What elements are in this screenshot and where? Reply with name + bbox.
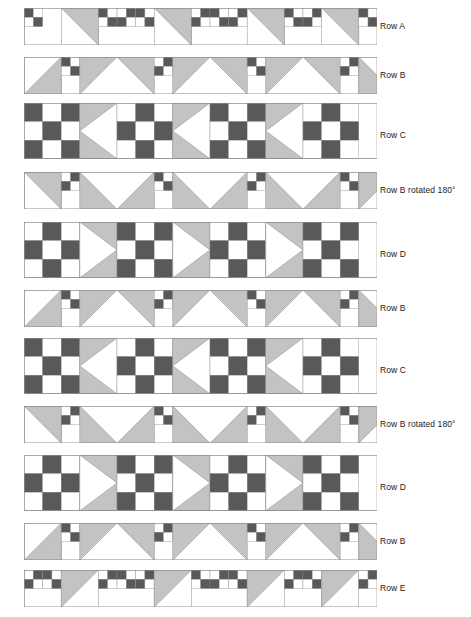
- unit-nine-patch: [303, 103, 359, 159]
- unit-hst: [322, 570, 359, 607]
- unit-nine-patch: [210, 455, 266, 511]
- unit-peak: [173, 523, 247, 560]
- row-label-row-b-3: Row B: [380, 537, 406, 546]
- unit-four-patch: [98, 8, 117, 27]
- quilt-row-row-e: [24, 570, 377, 607]
- row-label-row-b-rot-1: Row B rotated 180°: [380, 186, 456, 195]
- unit-four-patch: [154, 406, 173, 425]
- row-label-row-b-1: Row B: [380, 71, 406, 80]
- unit-hst: [359, 523, 378, 560]
- unit-peak: [80, 290, 154, 327]
- unit-nine-patch: [303, 222, 359, 278]
- row-label-row-c-2: Row C: [380, 366, 406, 375]
- unit-four-patch: [359, 8, 378, 27]
- unit-four-patch: [117, 8, 136, 27]
- unit-four-patch: [154, 290, 173, 309]
- quilt-assembly-diagram: Row ARow BRow CRow B rotated 180°Row DRo…: [0, 0, 471, 617]
- unit-four-patch: [247, 57, 266, 76]
- unit-hst: [359, 57, 378, 94]
- unit-four-patch: [154, 172, 173, 191]
- row-label-row-b-rot-2: Row B rotated 180°: [380, 420, 456, 429]
- unit-peak: [266, 172, 340, 209]
- quilt-row-row-c-2: [24, 338, 377, 394]
- unit-nine-patch: [24, 338, 80, 394]
- unit-hst: [61, 8, 98, 45]
- unit-nine-patch: [303, 455, 359, 511]
- unit-four-patch: [191, 8, 210, 27]
- unit-hst: [359, 290, 378, 327]
- unit-peak: [80, 57, 154, 94]
- unit-nine-patch: [117, 338, 173, 394]
- unit-arrow: [266, 455, 303, 511]
- row-units: [24, 455, 359, 511]
- unit-four-patch: [136, 570, 155, 589]
- unit-four-patch: [24, 8, 43, 27]
- unit-arrow: [80, 338, 117, 394]
- unit-hst: [24, 172, 61, 209]
- unit-four-patch: [117, 570, 136, 589]
- unit-peak: [173, 172, 247, 209]
- unit-four-patch: [247, 406, 266, 425]
- quilt-row-row-b-2: [24, 290, 377, 327]
- unit-peak: [80, 172, 154, 209]
- unit-arrow: [80, 103, 117, 159]
- quilt-row-row-d-1: [24, 222, 377, 278]
- row-units: [24, 222, 359, 278]
- unit-arrow: [80, 455, 117, 511]
- unit-nine-patch: [24, 222, 80, 278]
- unit-peak: [266, 523, 340, 560]
- unit-hst: [154, 8, 191, 45]
- unit-hst: [359, 406, 378, 443]
- unit-peak: [173, 406, 247, 443]
- unit-four-patch: [340, 523, 359, 542]
- quilt-row-row-b-3: [24, 523, 377, 560]
- unit-four-patch: [61, 172, 80, 191]
- unit-four-patch: [359, 570, 378, 589]
- unit-four-patch: [340, 406, 359, 425]
- row-units: [24, 57, 377, 94]
- unit-hst: [24, 523, 61, 560]
- unit-nine-patch: [117, 103, 173, 159]
- unit-four-patch: [154, 523, 173, 542]
- quilt-row-row-a: [24, 8, 377, 45]
- unit-peak: [266, 57, 340, 94]
- quilt-row-row-d-2: [24, 455, 377, 511]
- unit-nine-patch: [24, 455, 80, 511]
- unit-nine-patch: [210, 338, 266, 394]
- unit-arrow: [266, 338, 303, 394]
- unit-four-patch: [61, 523, 80, 542]
- unit-four-patch: [247, 172, 266, 191]
- row-label-row-d-2: Row D: [380, 483, 406, 492]
- unit-four-patch: [229, 8, 248, 27]
- unit-four-patch: [154, 57, 173, 76]
- unit-four-patch: [136, 8, 155, 27]
- unit-four-patch: [210, 8, 229, 27]
- unit-four-patch: [284, 570, 303, 589]
- unit-arrow: [266, 103, 303, 159]
- unit-four-patch: [284, 8, 303, 27]
- row-units: [24, 570, 377, 607]
- unit-four-patch: [229, 570, 248, 589]
- unit-four-patch: [61, 290, 80, 309]
- unit-arrow: [266, 222, 303, 278]
- quilt-row-row-c-1: [24, 103, 377, 159]
- unit-hst: [24, 57, 61, 94]
- row-units: [24, 103, 359, 159]
- unit-four-patch: [191, 570, 210, 589]
- quilt-row-row-b-rot-2: [24, 406, 377, 443]
- row-label-row-e: Row E: [380, 584, 406, 593]
- unit-arrow: [173, 455, 210, 511]
- unit-arrow: [173, 103, 210, 159]
- unit-nine-patch: [210, 222, 266, 278]
- unit-hst: [247, 570, 284, 607]
- unit-nine-patch: [303, 338, 359, 394]
- row-label-row-c-1: Row C: [380, 131, 406, 140]
- unit-peak: [173, 57, 247, 94]
- unit-four-patch: [340, 290, 359, 309]
- row-label-row-a: Row A: [380, 22, 405, 31]
- unit-hst: [247, 8, 284, 45]
- unit-four-patch: [61, 57, 80, 76]
- unit-four-patch: [43, 570, 62, 589]
- row-units: [24, 172, 377, 209]
- unit-hst: [24, 406, 61, 443]
